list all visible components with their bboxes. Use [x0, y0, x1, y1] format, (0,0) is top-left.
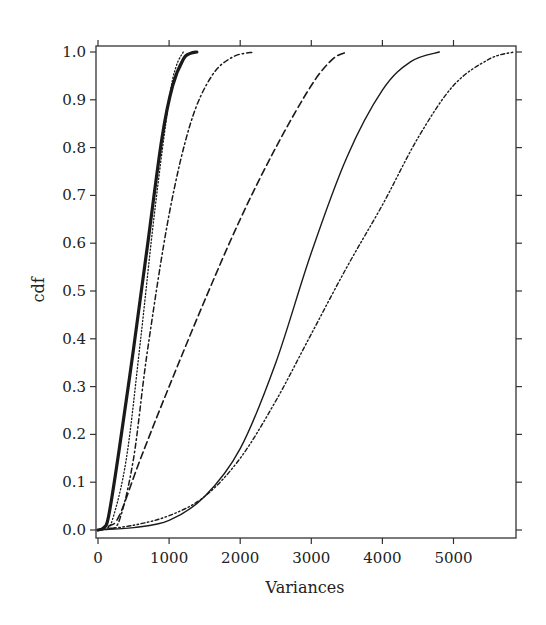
y-tick-label: 1.0	[62, 43, 86, 61]
cdf-chart: 010002000300040005000 0.00.10.20.30.40.5…	[0, 0, 546, 625]
y-axis-label: cdf	[29, 276, 48, 302]
x-tick-label: 2000	[221, 549, 259, 567]
series-thin-solid	[98, 52, 439, 530]
plot-border	[96, 46, 516, 538]
series-dash-dot	[98, 52, 254, 530]
y-tick-label: 0.0	[62, 521, 86, 539]
plot-frame	[96, 46, 516, 538]
y-tick-label: 0.6	[62, 234, 86, 252]
y-tick-label: 0.3	[62, 378, 86, 396]
y-tick-label: 0.9	[62, 91, 86, 109]
x-axis-label: Variances	[265, 578, 345, 597]
x-tick-label: 1000	[150, 549, 188, 567]
series-long-dash	[98, 52, 347, 530]
y-tick-label: 0.7	[62, 186, 86, 204]
y-tick-label: 0.4	[62, 330, 86, 348]
x-tick-label: 5000	[434, 549, 472, 567]
x-axis-ticks: 010002000300040005000	[93, 40, 472, 567]
y-tick-label: 0.8	[62, 139, 86, 157]
y-tick-label: 0.5	[62, 282, 86, 300]
series-dash-dot-dot	[98, 52, 514, 530]
x-tick-label: 3000	[292, 549, 330, 567]
series-layer	[98, 52, 514, 530]
x-tick-label: 0	[93, 549, 103, 567]
series-thick-solid	[98, 52, 197, 530]
x-tick-label: 4000	[363, 549, 401, 567]
y-tick-label: 0.1	[62, 473, 86, 491]
y-tick-label: 0.2	[62, 425, 86, 443]
